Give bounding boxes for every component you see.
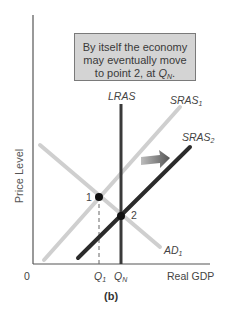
q1-tick-label: Q1 — [94, 270, 106, 283]
qn-tick-label: QN — [114, 270, 127, 283]
sras2-label: SRAS2 — [182, 131, 215, 144]
point-2-marker — [117, 212, 125, 220]
sras1-curve — [44, 107, 180, 260]
sras1-label: SRAS1 — [170, 94, 203, 107]
point-2-label: 2 — [131, 209, 137, 221]
callout-line-2: may eventually move — [75, 54, 195, 67]
point-1-marker — [95, 193, 103, 201]
callout-line-1: By itself the economy — [75, 41, 195, 54]
lras-label: LRAS — [108, 90, 135, 102]
shift-right-arrow-icon — [141, 150, 170, 168]
origin-label: 0 — [24, 270, 30, 282]
ad1-label: AD1 — [164, 244, 183, 257]
figure-caption: (b) — [104, 290, 118, 302]
callout-line-3: to point 2, at QN. — [75, 67, 195, 83]
x-axis-label: Real GDP — [167, 270, 214, 282]
callout-box: By itself the economy may eventually mov… — [74, 33, 196, 81]
point-1-label: 1 — [86, 191, 92, 203]
y-axis-label: Price Level — [13, 141, 25, 211]
